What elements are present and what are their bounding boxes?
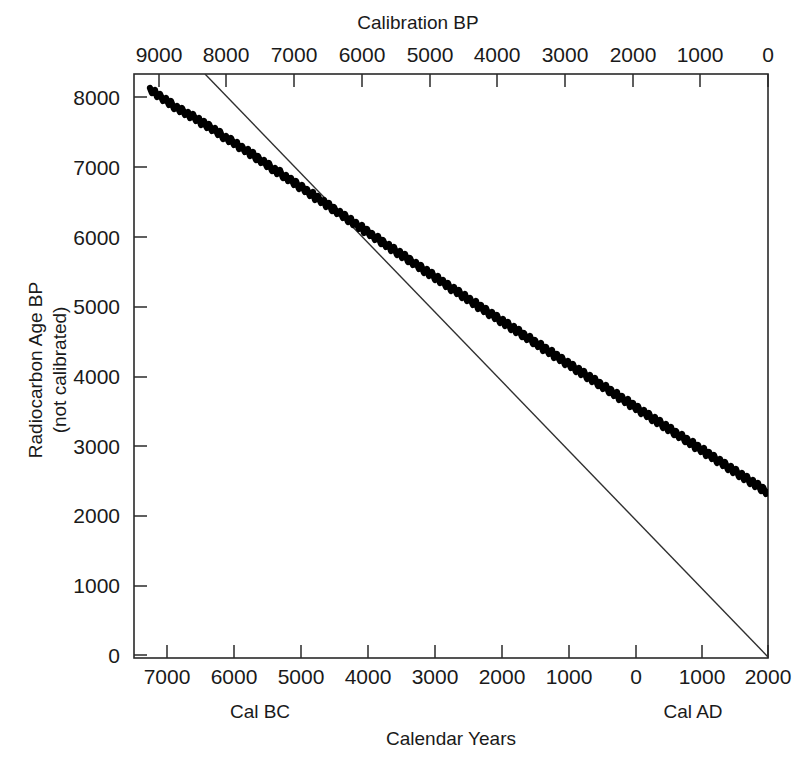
top-tick-label: 2000 [610, 43, 657, 66]
bottom-tick-label: 0 [630, 665, 642, 688]
chart-svg: Calibration BP 9000 8000 7000 6000 5000 … [0, 0, 809, 766]
top-tick-label: 9000 [136, 43, 183, 66]
top-tick-label: 8000 [203, 43, 250, 66]
bottom-tick-label: 4000 [345, 665, 392, 688]
top-tick-label: 1000 [677, 43, 724, 66]
left-tick-label: 5000 [73, 295, 120, 318]
bottom-tick-label: 6000 [211, 665, 258, 688]
top-tick-label: 7000 [271, 43, 318, 66]
bottom-tick-label: 1000 [546, 665, 593, 688]
left-tick-label: 3000 [73, 435, 120, 458]
left-axis-title-line1: Radiocarbon Age BP [25, 282, 46, 458]
figure-background [0, 0, 809, 766]
top-tick-label: 3000 [542, 43, 589, 66]
left-tick-label: 1000 [73, 574, 120, 597]
bottom-axis-title: Calendar Years [386, 728, 516, 749]
left-axis-tick-labels: 8000 7000 6000 5000 4000 3000 2000 1000 … [73, 86, 120, 667]
cal-ad-label: Cal AD [663, 701, 722, 722]
left-tick-label: 2000 [73, 504, 120, 527]
top-axis-title: Calibration BP [357, 12, 478, 33]
bottom-tick-label: 5000 [278, 665, 325, 688]
top-tick-label: 6000 [339, 43, 386, 66]
top-tick-label: 0 [762, 43, 774, 66]
bottom-tick-label: 7000 [144, 665, 191, 688]
left-tick-label: 4000 [73, 365, 120, 388]
bottom-tick-label: 1000 [679, 665, 726, 688]
left-tick-label: 0 [108, 644, 120, 667]
radiocarbon-calibration-figure: Calibration BP 9000 8000 7000 6000 5000 … [0, 0, 809, 766]
left-tick-label: 8000 [73, 86, 120, 109]
bottom-tick-label: 2000 [745, 665, 792, 688]
left-axis-title-line2: (not calibrated) [49, 307, 70, 434]
top-tick-label: 5000 [407, 43, 454, 66]
top-tick-label: 4000 [474, 43, 521, 66]
bottom-tick-label: 3000 [412, 665, 459, 688]
left-tick-label: 7000 [73, 156, 120, 179]
bottom-tick-label: 2000 [479, 665, 526, 688]
left-tick-label: 6000 [73, 226, 120, 249]
cal-bc-label: Cal BC [230, 701, 290, 722]
